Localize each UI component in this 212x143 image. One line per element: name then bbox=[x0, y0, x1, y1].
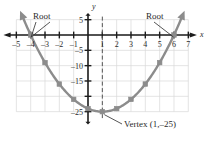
parabola-graph: –5–4–3–2–112345675–5–10–15–25 x y Root R… bbox=[0, 0, 212, 143]
data-point-marker bbox=[143, 82, 148, 87]
root-right-label: Root bbox=[146, 11, 164, 21]
data-point-marker bbox=[86, 106, 91, 111]
x-tick-label: –5 bbox=[11, 40, 20, 49]
figure-canvas: –5–4–3–2–112345675–5–10–15–25 x y Root R… bbox=[0, 0, 212, 143]
x-tick-label: –4 bbox=[26, 40, 35, 49]
y-tick-label: –15 bbox=[70, 77, 83, 86]
data-point-marker bbox=[157, 60, 162, 65]
vertex-label: Vertex (1,–25) bbox=[124, 119, 176, 129]
x-tick-label: 5 bbox=[158, 40, 162, 49]
x-tick-label: 1 bbox=[100, 40, 104, 49]
root-left-label: Root bbox=[33, 11, 51, 21]
data-point-marker bbox=[43, 60, 48, 65]
y-tick-label: 5 bbox=[79, 16, 83, 25]
x-tick-label: 2 bbox=[115, 40, 119, 49]
x-tick-label: 4 bbox=[143, 40, 147, 49]
x-tick-label: 6 bbox=[172, 40, 176, 49]
x-axis-label: x bbox=[199, 30, 204, 39]
x-tick-label: 3 bbox=[129, 40, 133, 49]
x-tick-label: –2 bbox=[54, 40, 63, 49]
y-tick-label: –10 bbox=[70, 62, 83, 71]
axis-tick-labels: –5–4–3–2–112345675–5–10–15–25 bbox=[11, 16, 190, 117]
y-tick-label: –5 bbox=[74, 46, 83, 55]
x-tick-label: –3 bbox=[40, 40, 49, 49]
data-point-marker bbox=[114, 106, 119, 111]
axes bbox=[3, 13, 196, 125]
data-point-marker bbox=[129, 97, 134, 102]
x-tick-label: 7 bbox=[186, 40, 190, 49]
data-point-marker bbox=[71, 97, 76, 102]
data-point-marker bbox=[57, 82, 62, 87]
y-tick-label: –25 bbox=[70, 108, 83, 117]
y-axis-label: y bbox=[91, 2, 96, 11]
data-point-marker bbox=[100, 109, 105, 114]
